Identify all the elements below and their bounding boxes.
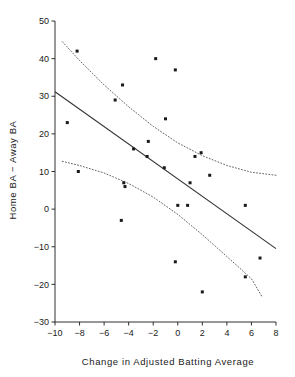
x-axis: −10−8−6−4−202468 [47,322,278,338]
data-point [163,166,166,169]
y-tick-label: −10 [34,242,49,252]
y-tick-label: 10 [39,167,49,177]
data-point [201,290,204,293]
y-tick-label: 30 [39,91,49,101]
x-tick-label: −8 [74,328,84,338]
y-axis-label: Home BA − Away BA [7,120,18,219]
data-point [164,117,167,120]
x-tick-label: 8 [273,328,278,338]
y-tick-label: −20 [34,280,49,290]
x-axis-label: Change in Adjusted Batting Average [82,356,254,367]
data-point [122,181,125,184]
y-tick-label: 50 [39,16,49,26]
x-tick-label: 0 [175,328,180,338]
data-point [244,275,247,278]
y-tick-label: 20 [39,129,49,139]
x-tick-label: −4 [124,328,134,338]
data-point [66,121,69,124]
figure-container: −30−20−1001020304050 −10−8−6−4−202468 Ch… [0,0,295,377]
data-point [259,257,262,260]
data-point [189,181,192,184]
fit-line [55,92,276,249]
y-tick-label: 40 [39,54,49,64]
data-point [132,147,135,150]
y-axis: −30−20−1001020304050 [34,16,55,327]
confidence-band-lower [62,161,262,297]
x-tick-label: −6 [99,328,109,338]
data-point [186,204,189,207]
data-point [193,155,196,158]
y-tick-label: 0 [44,204,49,214]
data-point [114,99,117,102]
data-point [120,219,123,222]
x-tick-label: 4 [224,328,229,338]
regression-line [55,92,276,249]
data-point [147,140,150,143]
data-point [200,151,203,154]
scatter-plot: −30−20−1001020304050 −10−8−6−4−202468 Ch… [0,0,295,377]
data-point [77,170,80,173]
y-tick-label: −30 [34,317,49,327]
data-point [146,155,149,158]
x-tick-label: 2 [200,328,205,338]
data-points [66,50,262,294]
x-tick-label: −2 [148,328,158,338]
data-point [174,260,177,263]
data-point [154,57,157,60]
confidence-bands [62,42,276,298]
confidence-band-upper [62,42,276,176]
x-tick-label: 6 [249,328,254,338]
data-point [244,204,247,207]
data-point [123,185,126,188]
data-point [174,68,177,71]
data-point [121,83,124,86]
data-point [176,204,179,207]
x-tick-label: −10 [47,328,62,338]
data-point [76,50,79,53]
data-point [208,174,211,177]
